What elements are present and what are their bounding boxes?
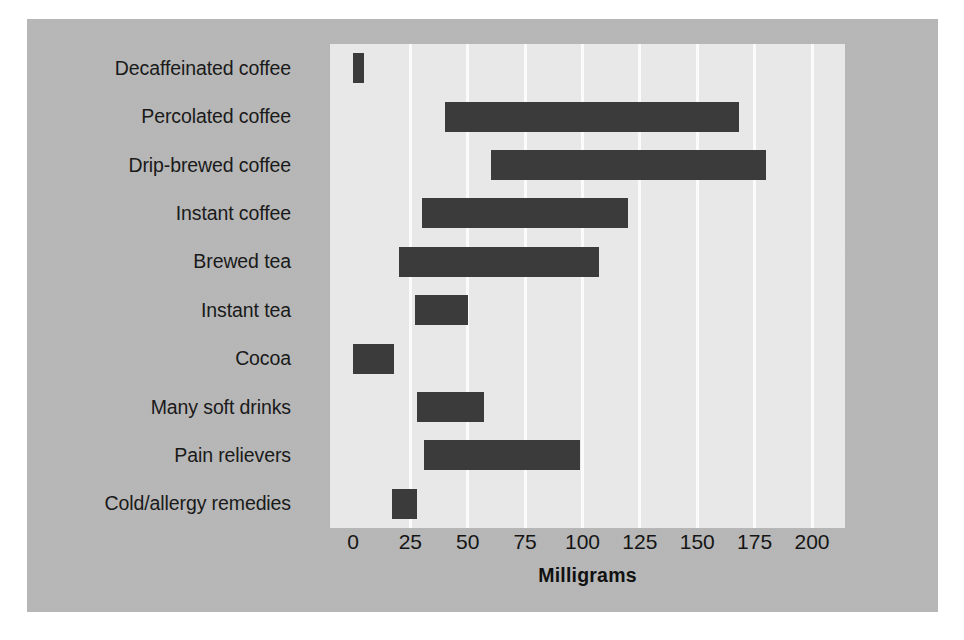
category-label: Instant coffee <box>27 189 303 237</box>
bar <box>353 53 364 83</box>
category-label: Cocoa <box>27 334 303 382</box>
x-tick-label: 125 <box>622 530 657 554</box>
category-label: Many soft drinks <box>27 383 303 431</box>
bar-row <box>330 431 845 479</box>
x-tick-label: 75 <box>513 530 536 554</box>
x-tick-label: 200 <box>794 530 829 554</box>
x-tick-label: 100 <box>565 530 600 554</box>
category-axis-labels: Decaffeinated coffee Percolated coffee D… <box>27 44 303 528</box>
bar-row <box>330 141 845 189</box>
bar-row <box>330 92 845 140</box>
bar <box>417 392 484 422</box>
category-label: Pain relievers <box>27 431 303 479</box>
x-axis-title: Milligrams <box>330 564 845 587</box>
category-label: Percolated coffee <box>27 92 303 140</box>
bar <box>424 440 580 470</box>
chart-figure: Decaffeinated coffee Percolated coffee D… <box>27 19 938 612</box>
x-tick-label: 150 <box>680 530 715 554</box>
bar-row <box>330 480 845 528</box>
bar-row <box>330 334 845 382</box>
x-tick-label: 0 <box>347 530 359 554</box>
bar <box>415 295 468 325</box>
bar-series <box>330 44 845 528</box>
plot-area <box>330 44 845 528</box>
bar <box>392 489 417 519</box>
x-axis-ticks: 0255075100125150175200 <box>330 528 845 562</box>
x-tick-label: 25 <box>399 530 422 554</box>
category-label: Instant tea <box>27 286 303 334</box>
category-label: Drip-brewed coffee <box>27 141 303 189</box>
bar <box>422 198 629 228</box>
x-tick-label: 175 <box>737 530 772 554</box>
bar-row <box>330 44 845 92</box>
bar-row <box>330 383 845 431</box>
category-label: Decaffeinated coffee <box>27 44 303 92</box>
category-label: Cold/allergy remedies <box>27 480 303 528</box>
bar <box>399 247 599 277</box>
bar-row <box>330 238 845 286</box>
bar <box>445 102 739 132</box>
x-tick-label: 50 <box>456 530 479 554</box>
bar-row <box>330 286 845 334</box>
category-label: Brewed tea <box>27 238 303 286</box>
bar-row <box>330 189 845 237</box>
bar <box>491 150 766 180</box>
bar <box>353 344 394 374</box>
